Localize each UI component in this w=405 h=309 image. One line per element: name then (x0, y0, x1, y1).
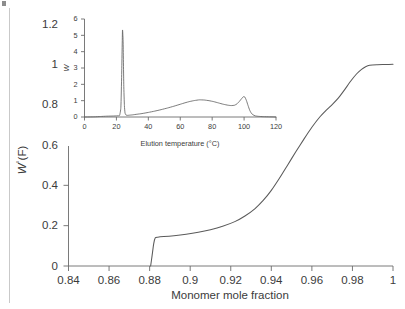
inset-x-tick-label: 60 (176, 122, 184, 131)
main-x-tick: 0.98 (341, 266, 363, 286)
inset-x-tick-label: 0 (82, 122, 86, 131)
main-x-tick: 0.88 (138, 266, 160, 286)
main-x-tick: 0.9 (182, 266, 198, 286)
inset-x-tick-label: 80 (208, 122, 216, 131)
inset-x-tick-label: 120 (270, 122, 282, 131)
main-y-tick-label: 0 (52, 260, 58, 272)
inset-x-tick-label: 40 (144, 122, 152, 131)
page-corner-mark (2, 1, 6, 6)
main-y-tick: 0.4 (42, 179, 69, 191)
main-y-tick-label: 0.4 (42, 179, 59, 191)
main-x-tick-label: 0.98 (341, 274, 363, 286)
inset-y-tick-label: 6 (73, 14, 77, 23)
inset-plot: 0 1 2 3 4 (62, 14, 294, 148)
main-x-tick: 1 (390, 266, 396, 286)
inset-y-tick-label: 1 (73, 96, 77, 105)
main-x-tick: 0.92 (220, 266, 242, 286)
inset-y-tick-label: 5 (73, 31, 77, 40)
main-x-tick-label: 0.88 (138, 274, 160, 286)
inset-x-tick-label: 100 (238, 122, 250, 131)
chart-canvas: 0 0.2 0.4 0.6 0.8 (0, 0, 405, 309)
main-x-ticks: 0.84 0.86 0.88 0.9 0.92 (57, 266, 396, 286)
main-x-tick: 0.86 (98, 266, 120, 286)
main-y-tick-label: 1.2 (42, 18, 58, 30)
main-y-tick-label: 1 (52, 58, 58, 70)
main-y-tick-label: 0.6 (42, 139, 58, 151)
figure-root: 0 0.2 0.4 0.6 0.8 (0, 0, 405, 309)
main-x-axis-title: Monomer mole fraction (171, 289, 289, 301)
inset-y-tick-label: 2 (73, 80, 77, 89)
inset-y-tick-label: 3 (73, 63, 77, 72)
inset-y-tick-label: 4 (73, 47, 77, 56)
inset-y-axis-title: W (62, 63, 71, 71)
inset-y-tick-label: 0 (73, 112, 77, 121)
inset-x-tick-label: 20 (112, 122, 120, 131)
svg-text:W°(F): W°(F) (15, 146, 29, 175)
main-x-tick-label: 0.94 (260, 274, 283, 286)
main-y-tick: 0.2 (42, 219, 69, 231)
main-x-tick-label: 0.9 (182, 274, 198, 286)
main-x-tick: 0.94 (260, 266, 283, 286)
main-y-tick-label: 0.2 (42, 219, 58, 231)
main-y-tick: 0 (52, 260, 69, 272)
main-x-tick-label: 0.86 (98, 274, 120, 286)
inset-y-axis-title-text: W (62, 63, 71, 71)
main-x-tick: 0.96 (301, 266, 323, 286)
main-x-tick-label: 0.84 (57, 274, 80, 286)
inset-x-axis-title: Elution temperature (°C) (141, 139, 220, 148)
main-y-axis-title: W°(F) (15, 146, 29, 175)
main-x-tick: 0.84 (57, 266, 80, 286)
main-x-tick-label: 0.92 (220, 274, 242, 286)
main-y-tick-label: 0.8 (42, 98, 58, 110)
main-x-tick-label: 1 (390, 274, 396, 286)
main-x-tick-label: 0.96 (301, 274, 323, 286)
main-y-axis-title-suffix: (F) (16, 146, 28, 161)
page-margin-rule (9, 8, 10, 303)
